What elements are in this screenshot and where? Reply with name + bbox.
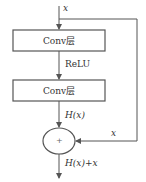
hx-label: H(x) [65, 111, 85, 120]
output-label: H(x)+x [65, 159, 98, 168]
skip-label: x [111, 129, 116, 138]
conv-layer-2-label: Conv层 [13, 87, 105, 96]
input-label: x [63, 4, 68, 13]
plus-icon: + [56, 137, 63, 145]
activation-label: ReLU [65, 60, 90, 69]
conv-layer-1-label: Conv层 [13, 37, 105, 46]
